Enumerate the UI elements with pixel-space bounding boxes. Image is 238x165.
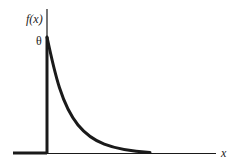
y-axis-label: f(x) [26, 12, 43, 26]
density-curve [47, 37, 150, 153]
x-axis-label: x [220, 146, 227, 160]
exponential-density-figure: f(x) θ x [0, 0, 238, 165]
peak-theta-label: θ [36, 34, 42, 48]
plot-canvas: f(x) θ x [0, 0, 238, 165]
